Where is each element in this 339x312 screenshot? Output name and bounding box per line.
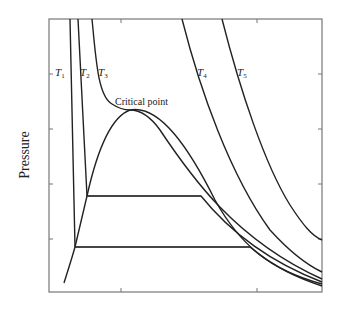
x-axis-ticks <box>121 19 257 292</box>
critical-point-label: Critical point <box>115 96 168 107</box>
label-t1: T1 <box>55 66 65 80</box>
isotherm-t1 <box>70 19 322 286</box>
isotherm-t4 <box>182 19 322 272</box>
label-t4: T4 <box>197 66 207 80</box>
isotherm-t3-critical <box>92 19 322 279</box>
y-axis-label: Pressure <box>17 131 32 178</box>
isotherm-t5 <box>222 19 322 240</box>
label-t3: T3 <box>98 66 108 80</box>
label-t5: T5 <box>237 66 247 80</box>
isotherm-t2 <box>78 19 322 282</box>
diagram-canvas: Pressure T1 T2 T3 T4 T5 Critical point <box>0 0 339 312</box>
pv-diagram: Pressure T1 T2 T3 T4 T5 Critical point <box>0 0 339 312</box>
plot-frame <box>49 19 322 292</box>
label-t2: T2 <box>80 66 90 80</box>
